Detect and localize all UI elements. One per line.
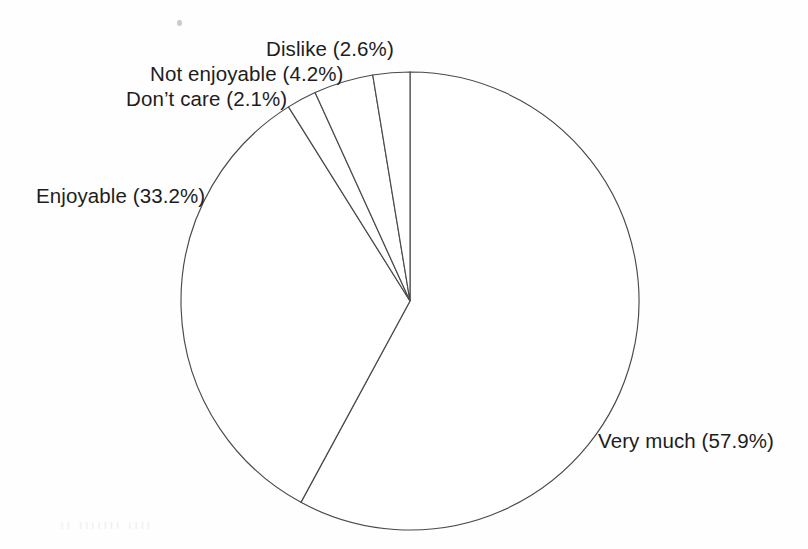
pie-label-very-much: Very much (57.9%) [598,430,774,453]
pie-label-dislike: Dislike (2.6%) [266,38,394,61]
pie-chart-figure: Dislike (2.6%) Not enjoyable (4.2%) Don’… [0,0,808,549]
pie-label-enjoyable: Enjoyable (33.2%) [36,185,205,208]
scan-speck-artifact [177,20,182,26]
pie-chart-canvas [0,0,808,549]
pie-label-not-enjoyable: Not enjoyable (4.2%) [150,63,343,86]
scan-bleedthrough-artifact: ıı ııııııı ıııı [60,517,153,532]
pie-label-dont-care: Don’t care (2.1%) [126,88,287,111]
pie-slice-group [181,72,639,530]
